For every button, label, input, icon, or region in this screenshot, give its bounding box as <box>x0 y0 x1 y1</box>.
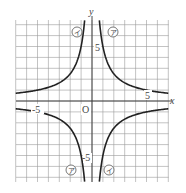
curve-a-label-top: ア <box>108 27 118 37</box>
curve-a-label-bottom: ア <box>66 165 76 175</box>
svg-text:ア: ア <box>110 29 117 37</box>
svg-text:イ: イ <box>74 29 81 37</box>
curve-i-label-bottom: イ <box>104 165 114 175</box>
origin-label: O <box>82 104 89 115</box>
hyperbola-graph: y x O -5 5 5 -5 ア イ ア イ <box>0 0 186 193</box>
x-tick-neg5: -5 <box>32 104 40 115</box>
svg-text:イ: イ <box>106 167 113 175</box>
curve-i-label-top: イ <box>72 27 82 37</box>
x-tick-5: 5 <box>145 90 150 101</box>
y-tick-5: 5 <box>95 42 100 53</box>
x-axis-label: x <box>169 95 175 106</box>
svg-text:ア: ア <box>68 167 75 175</box>
y-axis-label: y <box>88 6 94 17</box>
y-tick-neg5: -5 <box>82 152 90 163</box>
